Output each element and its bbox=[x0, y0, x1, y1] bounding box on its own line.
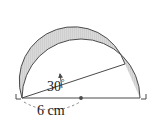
right-angle-mark-left bbox=[16, 94, 21, 99]
angle-label: 30° bbox=[47, 78, 65, 94]
chord-line bbox=[22, 64, 125, 98]
right-angle-mark-right bbox=[141, 94, 146, 99]
angle-value: 30 bbox=[47, 79, 61, 94]
degree-symbol: ° bbox=[61, 77, 65, 87]
center-point-dot bbox=[79, 96, 83, 100]
shaded-region bbox=[19, 27, 140, 98]
geometry-canvas bbox=[0, 0, 155, 123]
geometry-figure: 30° 6 cm bbox=[0, 0, 155, 123]
length-label: 6 cm bbox=[37, 104, 65, 118]
